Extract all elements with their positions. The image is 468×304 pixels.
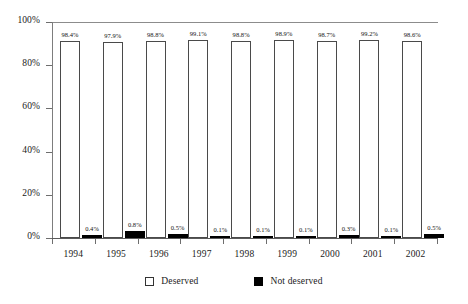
x-axis-tick-label: 1994 <box>52 249 95 260</box>
bar-deserved <box>146 41 166 238</box>
x-axis-tick-mark <box>394 239 395 244</box>
x-axis-tick-mark <box>223 239 224 244</box>
bar-group: 98.8%0.1% <box>223 22 266 238</box>
x-axis-tick-label: 1998 <box>223 249 266 260</box>
legend-item-label: Deserved <box>161 276 198 287</box>
x-axis-tick-label: 1995 <box>95 249 138 260</box>
bar-deserved <box>103 42 123 238</box>
x-axis-tick-label: 1996 <box>138 249 181 260</box>
bar-not-deserved <box>424 234 444 238</box>
bar-deserved <box>188 40 208 238</box>
legend-item-label: Not deserved <box>270 276 322 287</box>
bar-group: 98.4%0.4% <box>52 22 95 238</box>
y-axis-tick-label: 100% <box>17 15 40 25</box>
legend-swatch-deserved-icon <box>145 277 154 286</box>
bar-deserved <box>231 41 251 238</box>
legend-item[interactable]: Deserved <box>145 276 198 287</box>
bar-value-label: 98.8% <box>141 31 171 39</box>
bar-group: 97.9%0.8% <box>95 22 138 238</box>
bar-value-label: 99.1% <box>183 30 213 38</box>
bar-value-label: 98.6% <box>397 31 427 39</box>
legend-swatch-not-deserved-icon <box>254 277 263 286</box>
x-axis-tick-mark <box>309 239 310 244</box>
x-axis-tick-mark <box>266 239 267 244</box>
x-axis-tick-label: 2001 <box>351 249 394 260</box>
bar-deserved <box>317 41 337 238</box>
x-axis-tick-label: 2000 <box>309 249 352 260</box>
bar-group: 98.7%0.3% <box>309 22 352 238</box>
x-axis-tick-mark <box>138 239 139 244</box>
x-axis-tick-mark <box>95 239 96 244</box>
bar-value-label: 98.7% <box>312 31 342 39</box>
y-axis-tick-label: 60% <box>22 101 40 111</box>
x-axis-line <box>52 238 438 239</box>
x-axis-tick-mark <box>52 239 53 244</box>
chart-legend: DeservedNot deserved <box>0 276 468 287</box>
x-axis-tick-mark <box>351 239 352 244</box>
bar-value-label: 99.2% <box>354 30 384 38</box>
bar-deserved <box>402 41 422 238</box>
bar-deserved <box>60 41 80 238</box>
plot-area: 98.4%0.4%97.9%0.8%98.8%0.5%99.1%0.1%98.8… <box>52 22 437 238</box>
x-axis-tick-mark <box>180 239 181 244</box>
y-axis-tick-label: 40% <box>22 145 40 155</box>
x-axis-tick-label: 2002 <box>394 249 437 260</box>
bar-value-label: 98.4% <box>55 31 85 39</box>
bar-chart: 0%20%40%60%80%100% 199419951996199719981… <box>0 0 468 304</box>
bar-group: 98.8%0.5% <box>138 22 181 238</box>
bar-deserved <box>359 40 379 238</box>
legend-item[interactable]: Not deserved <box>254 276 322 287</box>
y-axis-tick-label: 80% <box>22 58 40 68</box>
bar-group: 99.2%0.1% <box>351 22 394 238</box>
bar-value-label: 0.5% <box>418 224 450 232</box>
y-axis-tick-label: 20% <box>22 188 40 198</box>
x-axis-tick-mark <box>437 239 438 244</box>
x-axis-tick-label: 1997 <box>180 249 223 260</box>
bar-deserved <box>274 40 294 238</box>
bar-value-label: 97.9% <box>98 32 128 40</box>
bar-value-label: 98.8% <box>226 31 256 39</box>
x-axis-tick-label: 1999 <box>266 249 309 260</box>
bar-group: 98.6%0.5% <box>394 22 437 238</box>
bar-group: 98.9%0.1% <box>266 22 309 238</box>
y-axis-tick-label: 0% <box>27 231 40 241</box>
bar-group: 99.1%0.1% <box>180 22 223 238</box>
bar-value-label: 98.9% <box>269 30 299 38</box>
